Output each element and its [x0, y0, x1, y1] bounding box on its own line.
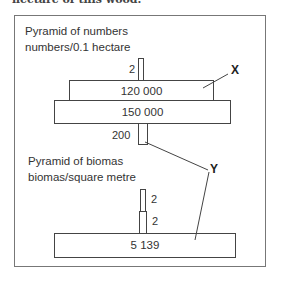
annotation-leader-lines — [0, 0, 282, 281]
label-y: Y — [210, 162, 218, 176]
label-x: X — [231, 63, 239, 77]
